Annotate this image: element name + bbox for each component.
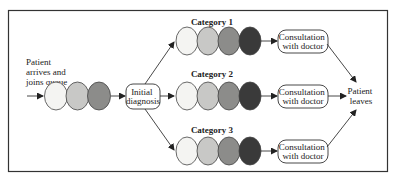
queue-patient bbox=[239, 137, 261, 165]
entry-queue bbox=[45, 82, 111, 110]
patient-flow-diagram: Patient arrives and joins queue Initial … bbox=[0, 0, 397, 180]
queue-patient bbox=[218, 27, 240, 55]
queue-patient bbox=[176, 82, 198, 110]
exit-label: Patient leaves bbox=[347, 86, 374, 106]
queue-patient bbox=[239, 27, 261, 55]
queue-patient-2 bbox=[66, 82, 89, 110]
queue-patient bbox=[197, 27, 219, 55]
queue-patient bbox=[197, 137, 219, 165]
initial-diagnosis-node: Initial diagnosis bbox=[126, 84, 160, 109]
queue-patient-1 bbox=[45, 82, 68, 110]
svg-text:Consultation with doct: Consultation with doctor bbox=[279, 87, 327, 106]
queue-patient-3 bbox=[88, 82, 111, 110]
svg-text:Consultation with doct: Consultation with doctor bbox=[279, 142, 327, 161]
consultation-node: Consultation with doctor bbox=[278, 85, 328, 108]
category-1-label: Category 1 bbox=[191, 17, 234, 27]
svg-text:Consultation with doct: Consultation with doctor bbox=[279, 32, 327, 51]
consultation-node: Consultation with doctor bbox=[278, 140, 328, 163]
queue-patient bbox=[218, 137, 240, 165]
queue-patient bbox=[218, 82, 240, 110]
consultation-node: Consultation with doctor bbox=[278, 30, 328, 53]
queue-patient bbox=[176, 137, 198, 165]
queue-patient bbox=[197, 82, 219, 110]
queue-patient bbox=[239, 82, 261, 110]
category-2-label: Category 2 bbox=[191, 69, 234, 79]
category-3-label: Category 3 bbox=[191, 125, 234, 135]
queue-patient bbox=[176, 27, 198, 55]
